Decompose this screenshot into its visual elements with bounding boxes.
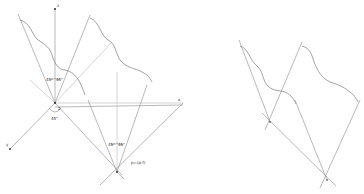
- y-axis: [10, 103, 55, 149]
- ray-left: [18, 14, 55, 103]
- x-axis: [55, 105, 183, 107]
- ray-diagonal: [55, 42, 112, 103]
- ray-lower-right: [117, 85, 147, 172]
- ray-lower-left: [88, 100, 117, 172]
- angle-label-lower-right: 45°: [118, 142, 125, 147]
- ray-right: [55, 15, 90, 103]
- right-ray-3: [295, 100, 327, 180]
- right-point-lower: [326, 179, 328, 181]
- ray-short-left: [30, 80, 55, 103]
- ray-to-lower-point: [55, 103, 122, 175]
- wave-curve-left: [20, 20, 85, 95]
- right-ray-2: [265, 42, 302, 130]
- z-axis-point: [54, 8, 56, 10]
- angle-label-bottom: 45°: [51, 116, 58, 121]
- right-ray-4: [320, 100, 360, 188]
- y-axis-label: y: [6, 142, 9, 147]
- angle-label-top-left: 45°: [46, 77, 53, 82]
- right-point-upper: [269, 121, 271, 123]
- point-label: p=(p-f): [131, 160, 146, 165]
- right-panel: [239, 40, 360, 188]
- right-wave-curve-right: [302, 46, 358, 102]
- right-wave-curve-left: [240, 46, 296, 104]
- wave-curve-right: [90, 18, 152, 82]
- z-axis-label: z: [57, 3, 59, 8]
- y-axis-point: [9, 148, 11, 150]
- origin-point: [54, 102, 56, 104]
- lower-point: [116, 171, 118, 173]
- angle-label-lower-left: 45°: [108, 142, 115, 147]
- diagram-canvas: z x y 45° 45° 45° 45° 45°: [0, 0, 364, 194]
- x-axis-label: x: [178, 97, 181, 102]
- angle-label-top-right: 45°: [56, 77, 63, 82]
- left-panel: z x y 45° 45° 45° 45° 45°: [6, 3, 183, 185]
- right-ray-1: [239, 40, 270, 122]
